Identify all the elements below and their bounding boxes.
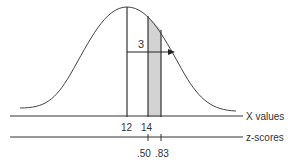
normal-curve-diagram: 3 X values 12 14 z-scores .50 .83 xyxy=(0,0,297,163)
x-axis-label: X values xyxy=(246,111,284,122)
x-tick-12: 12 xyxy=(121,122,133,133)
x-tick-14: 14 xyxy=(141,122,153,133)
sd-label: 3 xyxy=(138,38,144,50)
z-tick-50: .50 xyxy=(137,148,151,159)
normal-curve xyxy=(20,7,236,111)
z-tick-83: .83 xyxy=(155,148,169,159)
z-axis-label: z-scores xyxy=(246,132,284,143)
arrow-head-icon xyxy=(168,49,175,55)
shaded-region xyxy=(148,17,161,117)
